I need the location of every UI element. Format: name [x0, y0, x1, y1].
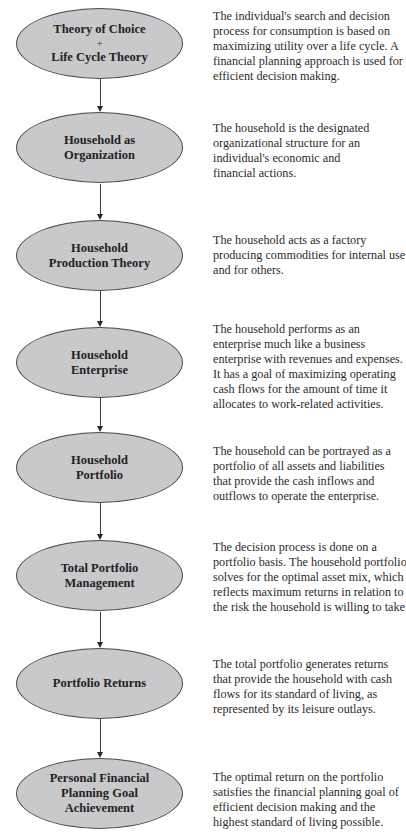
description-line: The total portfolio generates returns: [213, 657, 405, 672]
node-label-line: Planning Goal: [61, 786, 138, 801]
description-line: portfolio of all assets and liabilities: [213, 459, 405, 474]
description-line: The household acts as a factory: [213, 233, 405, 248]
node-label-line: Total Portfolio: [61, 561, 139, 576]
description-line: flows for its standard of living, as: [213, 687, 405, 702]
description-line: efficient decision making.: [213, 69, 405, 84]
node-personal-financial-planning-goal: Personal Financial Planning Goal Achieve…: [16, 758, 183, 829]
description-line: process for consumption is based on: [213, 24, 405, 39]
node-label-line: Portfolio Returns: [53, 676, 146, 691]
node-label-line: Household as: [64, 133, 135, 148]
arrow-shaft: [100, 397, 101, 427]
description-line: It has a goal of maximizing operating: [213, 367, 405, 382]
description-line: organizational structure for an: [213, 136, 405, 151]
arrow-shaft: [100, 719, 101, 753]
node-household-as-organization: Household as Organization: [16, 112, 183, 183]
node-portfolio-returns: Portfolio Returns: [16, 648, 183, 719]
node-label-line: Achievement: [65, 801, 134, 816]
description-line: represented by its leisure outlays.: [213, 702, 405, 717]
description-line: financial actions.: [213, 166, 405, 181]
node-label-line: Organization: [64, 148, 135, 163]
node-household-production-theory: Household Production Theory: [16, 220, 183, 291]
description-line: portfolio basis. The household portfolio: [213, 555, 405, 570]
description-line: outflows to operate the enterprise.: [213, 489, 405, 504]
arrow-shaft: [100, 184, 101, 215]
description-line: allocates to work-related activities.: [213, 397, 405, 412]
description-line: and for others.: [213, 263, 405, 278]
description-line: that provide the household with cash: [213, 672, 405, 687]
node-description-household-portfolio: The household can be portrayed as a port…: [213, 444, 405, 504]
arrow-5-to-6: [99, 503, 101, 540]
description-line: enterprise much like a business: [213, 337, 405, 352]
node-description-household-enterprise: The household performs as an enterprise …: [213, 322, 405, 412]
description-line: reflects maximum returns in relation to: [213, 585, 405, 600]
node-label-line: Theory of Choice: [53, 22, 145, 37]
arrow-3-to-4: [99, 291, 101, 327]
node-household-enterprise: Household Enterprise: [16, 327, 183, 398]
node-household-portfolio: Household Portfolio: [16, 432, 183, 503]
node-label-plus: +: [96, 37, 102, 50]
node-total-portfolio-management: Total Portfolio Management: [16, 540, 183, 611]
node-label-line: Management: [64, 576, 134, 591]
description-line: The optimal return on the portfolio: [213, 770, 405, 785]
node-label-line: Life Cycle Theory: [51, 50, 147, 65]
description-line: The individual's search and decision: [213, 9, 405, 24]
description-line: the risk the household is willing to tak…: [213, 600, 405, 615]
description-line: solves for the optimal asset mix, which: [213, 570, 405, 585]
description-line: highest standard of living possible.: [213, 815, 405, 830]
node-label-line: Portfolio: [76, 468, 123, 483]
description-line: maximizing utility over a life cycle. A: [213, 39, 405, 54]
description-line: producing commodities for internal use: [213, 248, 405, 263]
flowchart-canvas: Theory of Choice + Life Cycle Theory The…: [0, 0, 406, 840]
arrow-6-to-7: [99, 612, 101, 648]
arrow-4-to-5: [99, 397, 101, 432]
description-line: enterprise with revenues and expenses.: [213, 352, 405, 367]
node-description-portfolio-returns: The total portfolio generates returns th…: [213, 657, 405, 717]
arrow-2-to-3: [99, 184, 101, 220]
node-label-line: Personal Financial: [50, 771, 150, 786]
description-line: The decision process is done on a: [213, 540, 405, 555]
description-line: cash flows for the amount of time it: [213, 382, 405, 397]
node-description-household-production-theory: The household acts as a factory producin…: [213, 233, 405, 278]
arrow-7-to-8: [99, 719, 101, 758]
description-line: that provide the cash inflows and: [213, 474, 405, 489]
node-label-line: Household: [71, 241, 128, 256]
description-line: The household can be portrayed as a: [213, 444, 405, 459]
description-line: satisfies the financial planning goal of: [213, 785, 405, 800]
node-description-theory-of-choice: The individual's search and decision pro…: [213, 9, 405, 84]
arrow-shaft: [100, 79, 101, 107]
node-description-personal-financial-planning-goal: The optimal return on the portfolio sati…: [213, 770, 405, 830]
arrow-shaft: [100, 612, 101, 643]
node-label-line: Household: [71, 453, 128, 468]
node-description-household-as-organization: The household is the designated organiza…: [213, 121, 405, 181]
node-theory-of-choice-life-cycle: Theory of Choice + Life Cycle Theory: [16, 8, 183, 79]
description-line: efficient decision making and the: [213, 800, 405, 815]
node-label-line: Household: [71, 348, 128, 363]
description-line: financial planning approach is used for: [213, 54, 405, 69]
description-line: The household performs as an: [213, 322, 405, 337]
arrow-1-to-2: [99, 79, 101, 112]
node-label-line: Enterprise: [71, 363, 128, 378]
description-line: individual's economic and: [213, 151, 405, 166]
node-description-total-portfolio-management: The decision process is done on a portfo…: [213, 540, 405, 615]
arrow-shaft: [100, 503, 101, 535]
node-label-line: Production Theory: [49, 256, 150, 271]
arrow-shaft: [100, 291, 101, 322]
description-line: The household is the designated: [213, 121, 405, 136]
